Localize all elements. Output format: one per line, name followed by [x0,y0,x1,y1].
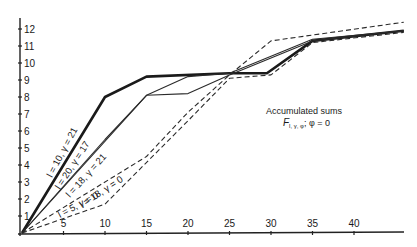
annotation-line2: Fl, γ, φ; φ = 0 [283,117,330,129]
x-tick-label: 25 [224,218,236,229]
y-tick-label: 9 [24,75,30,86]
series-label-4: l = 5, γ = 0 [56,189,100,220]
x-tick-label: 30 [265,218,277,229]
y-tick-label: 8 [24,92,30,103]
x-axis [18,232,404,234]
y-tick-label: 2 [24,194,30,205]
annotation-line1: Accumulated sums [266,106,343,116]
series-labels: l = 10, γ = 21l = 20, γ = 17l = 18, γ = … [44,125,125,219]
x-tick-label: 40 [348,218,360,229]
annotation-subscript: l, γ, φ [289,123,304,129]
y-tick-label: 11 [24,41,35,52]
y-tick-label: 10 [24,58,36,69]
y-tick-label: 4 [24,160,30,171]
y-tick-label: 7 [24,109,30,120]
y-tick-label: 6 [24,126,30,137]
x-tick-label: 10 [99,218,111,229]
accumulated-sums-chart: 123456789101112 510152025303540 l = 10, … [0,0,417,247]
x-tick-label: 15 [141,218,153,229]
x-tick-label: 35 [307,218,319,229]
y-tick-label: 5 [24,143,30,154]
annotation-rest: ; φ = 0 [304,118,330,128]
annotation: Accumulated sums Fl, γ, φ; φ = 0 [266,106,343,129]
y-tick-label: 12 [24,24,36,35]
y-tick-label: 3 [24,177,30,188]
x-tick-label: 20 [182,218,194,229]
